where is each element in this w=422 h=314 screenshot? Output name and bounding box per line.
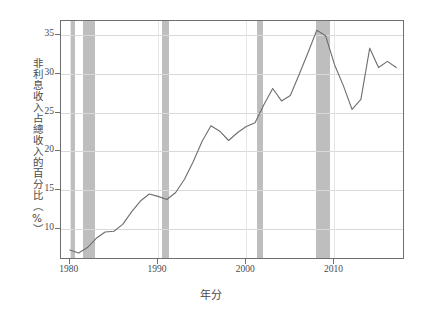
x-axis-tick-mark	[245, 259, 246, 264]
plot-area	[60, 20, 404, 259]
x-axis-tick-label: 2010	[311, 264, 355, 274]
chart-figure: 非利息收入占總收入的百分比（%） 年分 101520253035 1980199…	[0, 0, 422, 314]
series-line	[61, 21, 404, 259]
x-axis-tick-label: 1990	[135, 264, 179, 274]
y-axis-tick-label: 25	[28, 106, 54, 116]
y-axis-tick-label: 30	[28, 67, 54, 77]
x-axis-tick-mark	[69, 259, 70, 264]
x-axis-title: 年分	[0, 286, 422, 302]
y-axis-tick-label: 15	[28, 183, 54, 193]
x-axis-tick-mark	[157, 259, 158, 264]
x-axis-tick-label: 2000	[223, 264, 267, 274]
y-axis-tick-label: 20	[28, 144, 54, 154]
x-axis-tick-label: 1980	[47, 264, 91, 274]
x-axis-tick-mark	[333, 259, 334, 264]
y-axis-tick-label: 10	[28, 222, 54, 232]
y-axis-tick-label: 35	[28, 28, 54, 38]
